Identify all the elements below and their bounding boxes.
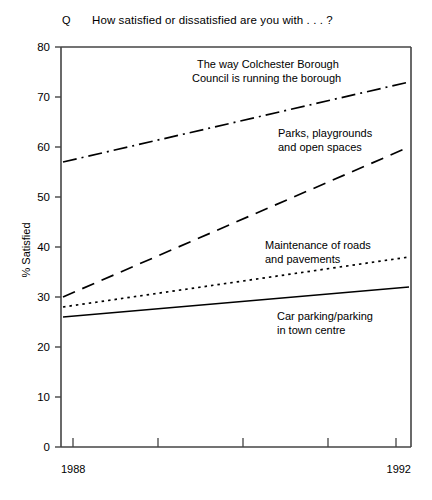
- y-tick-label-40: 40: [37, 241, 50, 253]
- line-chart-svg: 80 70 60 50 40 30 20 10 0 % Satisfied 19…: [0, 0, 432, 500]
- annotation-council: The way Colchester Borough Council is ru…: [192, 58, 341, 84]
- y-tick-label-20: 20: [37, 341, 50, 353]
- x-tick-label-1988: 1988: [61, 463, 85, 475]
- y-tick-labels: 80 70 60 50 40 30 20 10 0: [37, 41, 50, 453]
- annotation-car-parking: Car parking/parking in town centre: [277, 310, 373, 336]
- y-axis-title: % Satisfied: [20, 222, 32, 277]
- series-line-roads: [63, 257, 409, 307]
- y-tick-label-0: 0: [44, 441, 50, 453]
- y-tick-label-50: 50: [37, 191, 50, 203]
- annotation-car-parking-line1: Car parking/parking: [277, 310, 373, 322]
- y-tick-label-60: 60: [37, 141, 50, 153]
- y-tick-label-70: 70: [37, 91, 50, 103]
- annotation-car-parking-line2: in town centre: [277, 324, 345, 336]
- annotation-parks-line1: Parks, playgrounds: [278, 127, 373, 139]
- annotation-council-line1: The way Colchester Borough: [197, 58, 339, 70]
- y-tick-marks: [55, 47, 61, 447]
- annotation-roads-line2: and pavements: [265, 253, 341, 265]
- annotation-parks: Parks, playgrounds and open spaces: [278, 127, 373, 153]
- annotation-roads-line1: Maintenance of roads: [265, 239, 371, 251]
- annotation-council-line2: Council is running the borough: [192, 72, 341, 84]
- series-line-parks: [63, 147, 409, 297]
- x-tick-marks: [73, 438, 396, 447]
- y-tick-label-80: 80: [37, 41, 50, 53]
- x-tick-label-1992: 1992: [387, 463, 411, 475]
- annotation-roads: Maintenance of roads and pavements: [265, 239, 371, 265]
- chart-figure: Q How satisfied or dissatisfied are you …: [0, 0, 432, 500]
- y-tick-label-10: 10: [37, 391, 50, 403]
- annotation-parks-line2: and open spaces: [278, 141, 362, 153]
- y-tick-label-30: 30: [37, 291, 50, 303]
